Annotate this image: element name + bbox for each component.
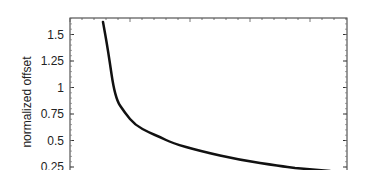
y-tick-label: 0.25 [41,160,65,170]
y-tick-label: 1.5 [47,28,64,42]
y-tick-label: 0.75 [41,107,65,121]
y-tick-label: 0.5 [47,134,64,148]
y-tick-label: 1 [57,81,64,95]
data-curve [103,22,330,170]
y-tick-labels: 1.51.2510.750.50.25 [41,28,65,171]
y-tick-label: 1.25 [41,54,65,68]
chart: 1.51.2510.750.50.25 normalized offset [0,0,371,170]
y-axis-label: normalized offset [20,56,34,148]
axis-ticks [70,18,347,170]
plot-frame [70,18,347,170]
